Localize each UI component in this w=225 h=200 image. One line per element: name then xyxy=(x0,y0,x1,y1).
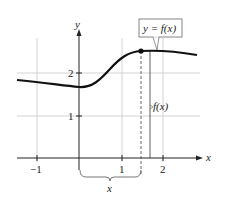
y-tick-label: 1 xyxy=(68,110,74,122)
fx-label: f(x) xyxy=(153,100,169,113)
y-axis-arrow-icon xyxy=(77,29,82,36)
x-axis-arrow-icon xyxy=(196,156,203,161)
y-tick-label: 2 xyxy=(68,67,74,79)
function-graph: x y −1 1 2 1 2 f(x) y = f(x) x xyxy=(0,0,225,200)
x-tick-label: 1 xyxy=(119,163,125,175)
x-tick-label: 2 xyxy=(160,163,166,175)
axes xyxy=(17,33,200,170)
callout-label: y = f(x) xyxy=(142,22,176,35)
y-axis-label: y xyxy=(74,18,80,30)
x-tick-label: −1 xyxy=(30,163,42,175)
callout: y = f(x) xyxy=(139,19,182,50)
highlighted-point xyxy=(138,48,143,53)
x-axis-label: x xyxy=(205,151,211,163)
x-brace-label: x xyxy=(106,182,112,194)
grid xyxy=(17,38,200,162)
ticks xyxy=(37,73,163,161)
x-brace xyxy=(80,170,141,181)
function-curve xyxy=(17,51,197,87)
